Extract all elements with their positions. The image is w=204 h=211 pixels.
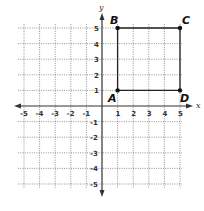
x-tick: 5: [178, 110, 183, 118]
y-tick: -5: [90, 181, 98, 189]
x-tick: -3: [51, 110, 59, 118]
x-tick: -1: [82, 110, 90, 118]
x-tick: -4: [36, 110, 44, 118]
y-tick: 4: [94, 41, 99, 49]
y-tick-labels: 5 4 3 2 1 -1 -2 -3 -4 -5: [90, 25, 99, 189]
y-axis-label: y: [98, 3, 104, 12]
coordinate-plane: x y -5 -4 -3 -2 -1 1 2 3 4 5 5 4 3 2 1 -…: [0, 0, 204, 211]
y-tick: -3: [90, 150, 98, 158]
x-tick: -5: [20, 110, 28, 118]
point-d-label: D: [180, 92, 189, 105]
y-axis-up-arrow-icon: [100, 13, 105, 20]
y-tick: -4: [90, 165, 98, 173]
x-tick: 1: [116, 110, 121, 118]
y-tick: 3: [94, 56, 99, 64]
point-c-label: C: [182, 14, 190, 27]
y-tick: 5: [94, 25, 99, 33]
y-tick: -1: [90, 119, 98, 127]
x-tick: -2: [67, 110, 75, 118]
x-axis-left-arrow-icon: [14, 104, 21, 109]
x-tick: 3: [147, 110, 152, 118]
point-b-label: B: [110, 14, 118, 27]
x-tick: 4: [162, 110, 167, 118]
y-axis: [100, 13, 105, 197]
x-axis-label: x: [196, 101, 201, 110]
point-a-label: A: [107, 92, 117, 105]
y-tick: 1: [94, 87, 99, 95]
y-tick: -2: [90, 134, 98, 142]
y-axis-down-arrow-icon: [100, 190, 105, 197]
x-tick: 2: [131, 110, 136, 118]
y-tick: 2: [94, 72, 99, 80]
x-axis: [14, 104, 193, 109]
